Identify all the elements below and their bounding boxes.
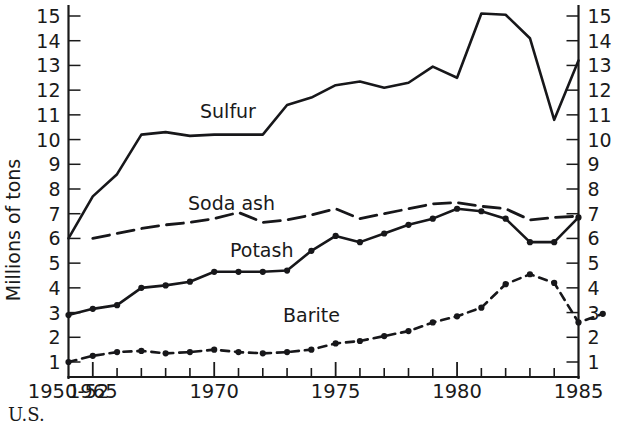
x-tick-label: 1970	[189, 380, 239, 403]
data-point-marker	[503, 281, 509, 287]
data-point-marker	[405, 222, 411, 228]
data-point-marker	[260, 269, 266, 275]
data-point-marker	[575, 319, 581, 325]
data-point-marker	[235, 349, 241, 355]
data-point-marker	[478, 305, 484, 311]
series-label-soda-ash: Soda ash	[188, 192, 275, 214]
data-point-marker	[90, 306, 96, 312]
y-tick-label-left: 15	[36, 5, 60, 27]
data-point-marker	[454, 206, 460, 212]
y-tick-label-right: 14	[588, 30, 612, 52]
figure-container: 1122334455667788991010111112121313141415…	[0, 0, 633, 424]
data-point-marker	[284, 349, 290, 355]
line-chart: 1122334455667788991010111112121313141415…	[0, 0, 633, 424]
data-point-marker	[284, 267, 290, 273]
y-axis-title-text: Millions of tons	[2, 159, 24, 301]
y-tick-label-left: 7	[48, 203, 60, 225]
y-tick-label-right: 11	[588, 104, 612, 126]
data-point-marker	[163, 350, 169, 356]
data-point-marker	[333, 340, 339, 346]
x-tick-label: 1985	[554, 380, 604, 403]
data-point-marker	[430, 319, 436, 325]
x-tick-label: 1965	[68, 380, 118, 403]
y-tick-label-left: 2	[48, 326, 60, 348]
data-point-marker	[551, 280, 557, 286]
data-point-marker	[90, 353, 96, 359]
y-tick-label-right: 7	[588, 203, 600, 225]
y-tick-label-right: 12	[588, 79, 612, 101]
data-point-marker	[381, 230, 387, 236]
data-point-marker	[430, 216, 436, 222]
data-point-marker	[235, 269, 241, 275]
series-label-barite: Barite	[283, 304, 340, 326]
y-tick-label-left: 14	[36, 30, 60, 52]
data-point-marker	[211, 347, 217, 353]
data-point-marker	[138, 285, 144, 291]
data-point-marker	[478, 208, 484, 214]
y-tick-label-left: 12	[36, 79, 60, 101]
data-point-marker	[163, 282, 169, 288]
data-point-marker	[187, 279, 193, 285]
data-point-marker	[503, 216, 509, 222]
y-tick-label-right: 1	[588, 351, 600, 373]
data-point-marker	[575, 214, 581, 220]
y-tick-label-right: 9	[588, 153, 600, 175]
figure-caption: U.S.	[8, 404, 45, 424]
series-line-sulfur	[69, 14, 579, 239]
y-tick-label-right: 2	[588, 326, 600, 348]
data-point-marker	[357, 239, 363, 245]
data-point-marker	[454, 313, 460, 319]
data-point-marker	[65, 359, 71, 365]
data-point-marker	[333, 233, 339, 239]
y-tick-label-right: 13	[588, 54, 612, 76]
y-axis-title: Millions of tons	[2, 159, 24, 301]
y-tick-label-left: 10	[36, 129, 60, 151]
data-point-marker	[551, 239, 557, 245]
y-tick-label-right: 8	[588, 178, 600, 200]
data-point-marker	[260, 350, 266, 356]
y-tick-label-left: 5	[48, 252, 60, 274]
x-tick-label: 1975	[311, 380, 361, 403]
y-tick-label-left: 13	[36, 54, 60, 76]
data-point-marker	[381, 333, 387, 339]
series-line-potash	[69, 209, 579, 315]
data-point-markers	[65, 206, 605, 365]
y-tick-label-right: 4	[588, 277, 600, 299]
tick-labels: 1122334455667788991010111112121313141415…	[28, 5, 612, 403]
y-tick-label-right: 10	[588, 129, 612, 151]
series-label-potash: Potash	[230, 239, 293, 261]
y-tick-label-right: 5	[588, 252, 600, 274]
data-point-marker	[527, 271, 533, 277]
y-tick-label-right: 15	[588, 5, 612, 27]
data-point-marker	[138, 348, 144, 354]
y-tick-label-left: 6	[48, 227, 60, 249]
data-point-marker	[114, 349, 120, 355]
y-tick-label-left: 1	[48, 351, 60, 373]
x-tick-label: 1980	[432, 380, 482, 403]
y-tick-label-left: 4	[48, 277, 60, 299]
data-point-marker	[357, 338, 363, 344]
series-label-sulfur: Sulfur	[200, 100, 256, 122]
data-point-marker	[187, 349, 193, 355]
data-point-marker	[114, 302, 120, 308]
data-point-marker	[527, 239, 533, 245]
y-tick-label-left: 8	[48, 178, 60, 200]
y-tick-label-left: 3	[48, 302, 60, 324]
y-tick-label-left: 11	[36, 104, 60, 126]
data-point-marker	[65, 312, 71, 318]
data-point-marker	[600, 311, 606, 317]
data-point-marker	[211, 269, 217, 275]
data-point-marker	[405, 328, 411, 334]
data-point-marker	[308, 347, 314, 353]
y-tick-label-right: 6	[588, 227, 600, 249]
data-point-marker	[308, 248, 314, 254]
y-tick-label-right: 3	[588, 302, 600, 324]
y-tick-label-left: 9	[48, 153, 60, 175]
